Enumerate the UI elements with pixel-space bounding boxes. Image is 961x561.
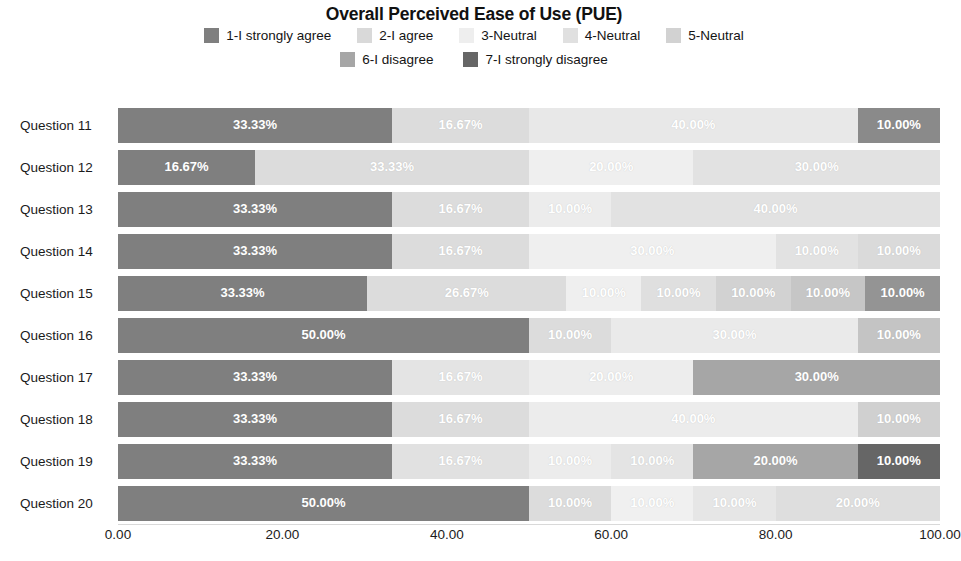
bar-row: Question 1333.33%16.67%10.00%40.00%: [0, 188, 948, 230]
bar-segment[interactable]: 40.00%: [611, 192, 940, 227]
bar-segment-value-label: 10.00%: [548, 454, 592, 468]
bar-segment[interactable]: 10.00%: [858, 108, 940, 143]
bar-segment[interactable]: 10.00%: [566, 276, 641, 311]
bar-segment[interactable]: 10.00%: [858, 444, 940, 479]
x-axis-tick-label: 60.00: [594, 527, 628, 542]
bar-segment[interactable]: 50.00%: [118, 318, 529, 353]
legend-item-1[interactable]: 1-I strongly agree: [204, 28, 331, 43]
legend-swatch-icon: [463, 52, 478, 67]
x-axis: 0.0020.0040.0060.0080.00100.00: [0, 524, 948, 554]
bar-segment-value-label: 10.00%: [582, 286, 626, 300]
bar-segment[interactable]: 20.00%: [529, 360, 693, 395]
bar-segment-value-label: 10.00%: [630, 454, 674, 468]
bar-segment[interactable]: 16.67%: [392, 192, 529, 227]
bar-segment[interactable]: 10.00%: [529, 444, 611, 479]
bar-segment[interactable]: 10.00%: [858, 318, 940, 353]
bar-segment[interactable]: 20.00%: [693, 444, 857, 479]
bar-segment[interactable]: 16.67%: [118, 150, 255, 185]
bar-segment-value-label: 10.00%: [548, 202, 592, 216]
bar-segment-value-label: 20.00%: [589, 160, 633, 174]
x-axis-tick-label: 80.00: [759, 527, 793, 542]
bar-segment[interactable]: 10.00%: [529, 318, 611, 353]
bar-segment[interactable]: 10.00%: [529, 192, 611, 227]
legend-item-7[interactable]: 7-I strongly disagree: [463, 52, 607, 67]
category-label: Question 20: [0, 496, 118, 511]
bar-segment-value-label: 33.33%: [233, 118, 277, 132]
bar-segment[interactable]: 10.00%: [529, 486, 611, 521]
bar-segment[interactable]: 16.67%: [392, 234, 529, 269]
bar-segment[interactable]: 26.67%: [367, 276, 566, 311]
bar-segment-value-label: 10.00%: [877, 328, 921, 342]
bar-segment[interactable]: 10.00%: [858, 402, 940, 437]
bar-segment[interactable]: 10.00%: [641, 276, 716, 311]
bar-segment[interactable]: 16.67%: [392, 402, 529, 437]
bar-segment[interactable]: 33.33%: [118, 360, 392, 395]
bar-segment[interactable]: 10.00%: [611, 444, 693, 479]
bar-segment-value-label: 10.00%: [806, 286, 850, 300]
legend-label: 4-Neutral: [585, 28, 641, 43]
bar-segment[interactable]: 50.00%: [118, 486, 529, 521]
bar-segment-value-label: 10.00%: [795, 244, 839, 258]
legend-swatch-icon: [563, 28, 578, 43]
legend-item-4[interactable]: 4-Neutral: [563, 28, 641, 43]
bar-segment[interactable]: 10.00%: [693, 486, 775, 521]
legend-label: 5-Neutral: [688, 28, 744, 43]
x-axis-tick-label: 100.00: [919, 527, 960, 542]
bar-segment[interactable]: 33.33%: [118, 402, 392, 437]
bar-track: 16.67%33.33%20.00%30.00%: [118, 150, 940, 185]
x-axis-tick-label: 20.00: [265, 527, 299, 542]
bar-segment[interactable]: 16.67%: [392, 444, 529, 479]
bar-segment[interactable]: 33.33%: [255, 150, 529, 185]
category-label: Question 11: [0, 118, 118, 133]
bar-segment-value-label: 30.00%: [795, 370, 839, 384]
chart-title: Overall Perceived Ease of Use (PUE): [0, 0, 948, 24]
bar-segment-value-label: 33.33%: [233, 412, 277, 426]
legend-item-3[interactable]: 3-Neutral: [459, 28, 537, 43]
legend-swatch-icon: [357, 28, 372, 43]
legend-label: 1-I strongly agree: [226, 28, 331, 43]
bar-segment-value-label: 20.00%: [836, 496, 880, 510]
bar-segment[interactable]: 10.00%: [791, 276, 866, 311]
legend-item-6[interactable]: 6-I disagree: [340, 52, 433, 67]
legend-item-5[interactable]: 5-Neutral: [666, 28, 744, 43]
bar-segment[interactable]: 10.00%: [858, 234, 940, 269]
bar-segment-value-label: 26.67%: [445, 286, 489, 300]
bar-row: Question 1833.33%16.67%40.00%10.00%: [0, 398, 948, 440]
bar-segment[interactable]: 30.00%: [693, 360, 940, 395]
bar-segment[interactable]: 16.67%: [392, 360, 529, 395]
legend-swatch-icon: [204, 28, 219, 43]
bar-segment[interactable]: 20.00%: [776, 486, 940, 521]
bar-segment[interactable]: 30.00%: [611, 318, 858, 353]
legend-label: 7-I strongly disagree: [485, 52, 607, 67]
category-label: Question 18: [0, 412, 118, 427]
bar-segment[interactable]: 33.33%: [118, 108, 392, 143]
bar-segment-value-label: 10.00%: [877, 118, 921, 132]
bar-row: Question 1133.33%16.67%40.00%10.00%: [0, 104, 948, 146]
bar-segment[interactable]: 30.00%: [693, 150, 940, 185]
bar-segment[interactable]: 33.33%: [118, 234, 392, 269]
bar-segment-value-label: 33.33%: [233, 202, 277, 216]
bar-segment[interactable]: 33.33%: [118, 444, 392, 479]
bar-segment-value-label: 33.33%: [233, 370, 277, 384]
bar-segment[interactable]: 16.67%: [392, 108, 529, 143]
bar-segment[interactable]: 10.00%: [611, 486, 693, 521]
bar-segment-value-label: 10.00%: [877, 454, 921, 468]
bar-segment-value-label: 33.33%: [370, 160, 414, 174]
bar-segment-value-label: 16.67%: [438, 370, 482, 384]
bar-segment[interactable]: 33.33%: [118, 276, 367, 311]
bar-segment[interactable]: 10.00%: [865, 276, 940, 311]
bar-segment-value-label: 20.00%: [589, 370, 633, 384]
bar-segment[interactable]: 20.00%: [529, 150, 693, 185]
bar-segment[interactable]: 33.33%: [118, 192, 392, 227]
bar-segment[interactable]: 30.00%: [529, 234, 776, 269]
chart-legend-row-primary: 1-I strongly agree 2-I agree 3-Neutral 4…: [0, 28, 948, 43]
legend-item-2[interactable]: 2-I agree: [357, 28, 433, 43]
legend-label: 2-I agree: [379, 28, 433, 43]
bar-track: 50.00%10.00%10.00%10.00%20.00%: [118, 486, 940, 521]
bar-segment[interactable]: 40.00%: [529, 108, 858, 143]
bar-segment[interactable]: 10.00%: [716, 276, 791, 311]
bar-segment[interactable]: 10.00%: [776, 234, 858, 269]
bar-segment-value-label: 33.33%: [220, 286, 264, 300]
bar-segment-value-label: 16.67%: [438, 202, 482, 216]
bar-segment[interactable]: 40.00%: [529, 402, 858, 437]
